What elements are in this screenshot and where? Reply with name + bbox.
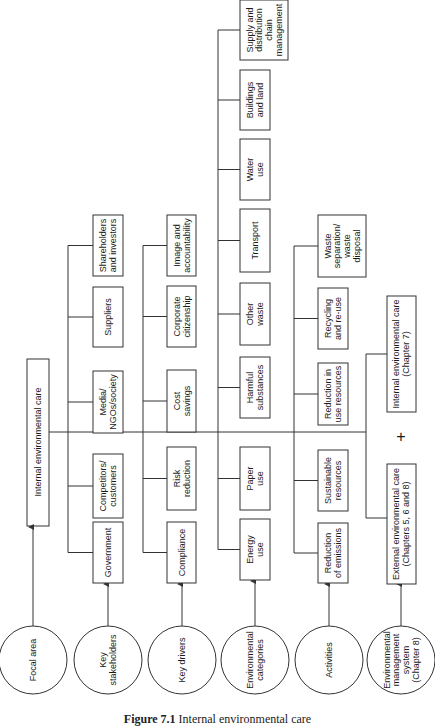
box-internal-environmental-care-chapter7-label-line: Internal environmental care <box>391 299 401 408</box>
box-key-drivers-0-label-line: Compliance <box>177 529 187 577</box>
circle-activities-label-line: Activities <box>324 642 334 678</box>
box-activities-4-label-line: Waste <box>323 233 333 258</box>
box-key-drivers-3-label-line: Corporate <box>172 296 182 336</box>
box-key-drivers-2-label-line: Cost <box>172 391 182 410</box>
box-environmental-categories-2-label-line: Harmful <box>245 372 255 404</box>
circle-focal-area-label: Focal area <box>28 639 38 682</box>
box-environmental-categories-3-label-line: Other <box>245 303 255 326</box>
box-environmental-categories-7-label-line: chain <box>264 19 274 41</box>
circle-environmental-categories-label: Environmentalcategories <box>245 631 265 689</box>
box-key-stakeholders-2-label-line: NGOs/society <box>108 374 118 430</box>
box-key-stakeholders-1-label: Competitors/customers <box>98 460 118 512</box>
circle-environmental-management-system-label-line: (Chapter 8) <box>411 637 421 683</box>
box-key-drivers-4-label: Image andaccountability <box>172 218 192 273</box>
box-activities-2-label-line: use resources <box>333 365 343 422</box>
box-activities-3-label: Recyclingand re-use <box>323 297 343 340</box>
figure-number: Figure 7.1 <box>124 712 176 726</box>
box-activities-0-label-line: Reduction <box>323 533 333 574</box>
box-key-stakeholders-0-label: Government <box>103 527 113 577</box>
circle-environmental-management-system-label-line: Environmental <box>382 631 392 689</box>
circle-environmental-categories-label-line: Environmental <box>245 631 255 689</box>
box-environmental-categories-2-label-line: substances <box>255 364 265 410</box>
box-external-environmental-care-label-line: External environmental care <box>391 468 401 580</box>
box-environmental-categories-4-label: Transport <box>250 221 260 260</box>
box-key-stakeholders-2-label-line: Media/ <box>98 388 108 416</box>
box-external-environmental-care-label: External environmental care(Chapters 5, … <box>391 468 411 580</box>
box-key-stakeholders-4-label: Shareholdersand investors <box>98 218 118 272</box>
box-activities-2-label: Reduction inuse resources <box>323 365 343 422</box>
box-activities-1-label: Sustainableresources <box>323 457 343 504</box>
box-key-stakeholders-3-label-line: Suppliers <box>103 298 113 336</box>
box-key-stakeholders-0-label-line: Government <box>103 527 113 577</box>
box-activities-2-label-line: Reduction in <box>323 369 333 419</box>
circle-key-stakeholders-label-line: Key <box>98 652 108 668</box>
box-key-drivers-2-label-line: savings <box>182 385 192 416</box>
box-key-drivers-3-label: Corporatecitizenship <box>172 295 192 337</box>
box-environmental-categories-7-label-line: management <box>274 3 284 56</box>
box-key-drivers-4-label-line: Image and <box>172 224 182 267</box>
circle-key-stakeholders-label-line: stakeholders <box>108 634 118 686</box>
box-environmental-categories-5-label-line: use <box>255 162 265 177</box>
box-internal-environmental-care-label-line: Internal environmental care <box>33 387 43 496</box>
circle-key-drivers-label: Key drivers <box>177 637 187 683</box>
box-activities-4-label-line: waste <box>342 234 352 259</box>
box-key-drivers-0-label: Compliance <box>177 529 187 577</box>
box-activities-0-label-line: of emissions <box>333 527 343 578</box>
box-key-drivers-1-label-line: Risk <box>172 469 182 487</box>
box-activities-1-label-line: Sustainable <box>323 457 333 504</box>
figure-caption: Figure 7.1 Internal environmental care <box>0 712 435 727</box>
circle-environmental-management-system-label-line: system <box>401 646 411 675</box>
box-key-stakeholders-4-label-line: and investors <box>108 218 118 272</box>
box-environmental-categories-0-label-line: Energy <box>245 535 255 564</box>
circle-activities-label: Activities <box>324 642 334 678</box>
figure-title: Internal environmental care <box>179 712 312 726</box>
box-environmental-categories-0-label-line: use <box>255 542 265 557</box>
circle-key-drivers-label-line: Key drivers <box>177 637 187 683</box>
box-environmental-categories-1-label-line: Paper <box>245 466 255 490</box>
box-internal-environmental-care-label: Internal environmental care <box>33 387 43 496</box>
box-environmental-categories-3-label: Otherwaste <box>245 302 265 327</box>
box-external-environmental-care-label-line: (Chapters 5, 6 and 8) <box>401 481 411 566</box>
box-activities-4-label-line: separation/ <box>332 223 342 268</box>
box-environmental-categories-6-label-line: and land <box>255 83 265 118</box>
box-key-stakeholders-1-label-line: customers <box>108 465 118 507</box>
plus-sign: + <box>396 428 405 445</box>
box-key-stakeholders-1-label-line: Competitors/ <box>98 460 108 512</box>
box-activities-3-label-line: Recycling <box>323 299 333 338</box>
box-activities-0-label: Reductionof emissions <box>323 527 343 578</box>
circle-focal-area-label-line: Focal area <box>28 639 38 682</box>
box-environmental-categories-3-label-line: waste <box>255 302 265 327</box>
circle-environmental-categories-label-line: categories <box>255 639 265 681</box>
box-key-drivers-1-label-line: reduction <box>182 460 192 497</box>
box-key-stakeholders-3-label: Suppliers <box>103 298 113 336</box>
box-key-drivers-4-label-line: accountability <box>182 218 192 273</box>
circle-environmental-management-system-label-line: management <box>391 633 401 686</box>
box-activities-4-label-line: disposal <box>352 229 362 262</box>
box-environmental-categories-7-label: Supply anddistributionchainmanagement <box>245 3 284 56</box>
box-environmental-categories-7-label-line: Supply and <box>245 7 255 52</box>
box-key-stakeholders-4-label-line: Shareholders <box>98 218 108 272</box>
box-environmental-categories-5-label-line: Water <box>245 158 255 182</box>
box-activities-1-label-line: resources <box>333 460 343 500</box>
box-activities-3-label-line: and re-use <box>333 297 343 340</box>
box-environmental-categories-7-label-line: distribution <box>254 8 264 52</box>
box-environmental-categories-6-label-line: Buildings <box>245 81 255 118</box>
circle-environmental-management-system-label: Environmentalmanagementsystem(Chapter 8) <box>382 631 421 689</box>
box-environmental-categories-6-label: Buildingsand land <box>245 81 265 118</box>
box-key-drivers-3-label-line: citizenship <box>182 295 192 337</box>
box-environmental-categories-1-label-line: use <box>255 471 265 486</box>
box-environmental-categories-4-label-line: Transport <box>250 221 260 260</box>
box-internal-environmental-care-chapter7-label-line: (Chapter 7) <box>401 331 411 377</box>
